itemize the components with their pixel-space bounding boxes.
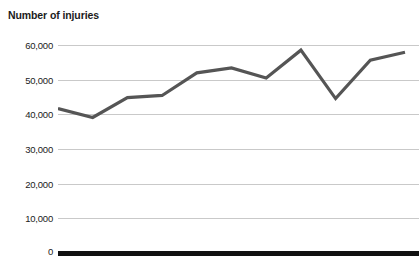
y-tick-10000: 10,000 — [1, 213, 53, 224]
x-axis-baseline — [58, 251, 419, 256]
y-tick-60000: 60,000 — [1, 40, 53, 51]
series-line-number-of-injuries — [58, 0, 419, 259]
y-tick-40000: 40,000 — [1, 109, 53, 120]
y-tick-0: 0 — [1, 246, 53, 257]
injuries-line-chart: Number of injuries 60,000 50,000 40,000 … — [0, 0, 419, 259]
y-axis-tick-labels: 60,000 50,000 40,000 30,000 20,000 10,00… — [0, 0, 53, 259]
plot-area — [58, 0, 419, 259]
y-tick-20000: 20,000 — [1, 179, 53, 190]
y-tick-50000: 50,000 — [1, 75, 53, 86]
y-tick-30000: 30,000 — [1, 144, 53, 155]
